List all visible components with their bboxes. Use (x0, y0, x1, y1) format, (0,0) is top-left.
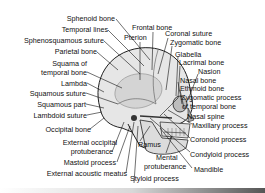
label-lambdoid-suture: Lambdoid suture (33, 112, 87, 120)
bottom-edge-shadow (0, 188, 265, 193)
label-of-temporal-bone: of temporal bone (182, 103, 236, 111)
label-ethmoid-bone: Ethmoid bone (180, 85, 224, 93)
label-parietal-bone: Parietal bone (55, 48, 97, 56)
label-squamous-part: Squamous part (37, 101, 86, 109)
label-mastoid-process: Mastoid process (64, 159, 116, 167)
label-temporal-bone: temporal bone (41, 69, 87, 77)
label-squama-of: Squama of (52, 60, 87, 68)
label-maxillary-process: Maxillary process (192, 122, 248, 130)
label-external-occipital: External occipital (63, 139, 117, 147)
label-sphenoid-bone: Sphenoid bone (67, 15, 115, 23)
label-sphenosquamous-suture: Sphenosquamous suture (24, 37, 104, 45)
label-coronoid-process: Coronoid process (190, 136, 246, 144)
label-mandible: Mandible (194, 166, 223, 174)
label-pterion: Pterion (124, 34, 147, 42)
label-temporal-lines: Temporal lines (62, 26, 108, 34)
label-external-acoustic-meatus: External acoustic meatus (47, 170, 127, 178)
label-styloid-process: Styloid process (130, 175, 179, 183)
label-squamous-suture: Squamous suture (30, 90, 86, 98)
label-occipital-bone: Occipital bone (45, 126, 91, 134)
label-coronal-suture: Coronal suture (165, 30, 212, 38)
label-protuberance: protuberance (71, 148, 113, 156)
label-zygomatic-process: Zygomatic process (181, 94, 241, 102)
label-ramus: Ramus (138, 141, 161, 149)
label-nasal-spine: Nasal spine (187, 113, 225, 121)
label-zygomatic-bone: Zygomatic bone (170, 39, 221, 47)
label-lambda: Lambda (61, 80, 87, 88)
label-mental: Mental (156, 154, 178, 162)
label-mental-protuberance: protuberance (144, 163, 186, 171)
label-nasion: Nasion (198, 68, 220, 76)
label-condyloid-process: Condyloid process (190, 151, 249, 159)
skull-diagram: Sphenoid bone Temporal lines Sphenosquam… (0, 0, 265, 193)
label-lacrimal-bone: Lacrimal bone (179, 59, 224, 67)
